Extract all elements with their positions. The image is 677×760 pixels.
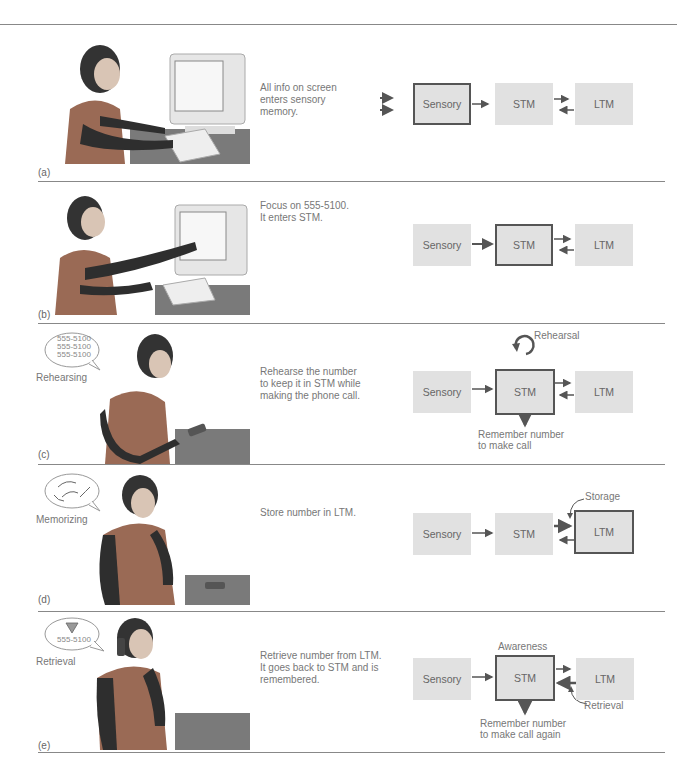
bubble-numbers: 555-5100 555-5100 555-5100 — [52, 335, 96, 359]
output-label: Remember number to make call again — [480, 718, 566, 740]
divider — [38, 752, 665, 753]
panel-description: Store number in LTM. — [260, 507, 400, 519]
desc-line: making the phone call. — [260, 390, 410, 402]
ltm-box: LTM — [575, 371, 633, 413]
side-label: Memorizing — [36, 514, 88, 525]
bubble-line: 555-5100 — [52, 351, 96, 359]
rehearsal-label: Rehearsal — [534, 330, 580, 341]
panel-letter: (e) — [38, 740, 50, 751]
stm-box: STM — [495, 369, 555, 415]
woman-pointing-illustration — [55, 190, 250, 315]
woman-at-computer-illustration — [55, 34, 250, 164]
panel-description: Retrieve number from LTM. It goes back t… — [260, 650, 410, 686]
stm-box: STM — [495, 83, 553, 125]
panel-description: All info on screen enters sensory memory… — [260, 82, 400, 118]
sensory-box: Sensory — [413, 224, 471, 266]
desc-line: Rehearse the number — [260, 366, 410, 378]
label-line: to make call — [478, 440, 564, 451]
desc-line: Focus on 555-5100. — [260, 200, 400, 212]
panel-c: 555-5100 555-5100 555-5100 Rehearsing Re… — [0, 324, 677, 464]
panel-b: Focus on 555-5100. It enters STM. Sensor… — [0, 182, 677, 322]
panel-a: All info on screen enters sensory memory… — [0, 24, 677, 184]
panel-letter: (c) — [38, 449, 50, 460]
stm-box: STM — [495, 513, 553, 555]
panel-description: Rehearse the number to keep it in STM wh… — [260, 366, 410, 402]
desc-line: to keep it in STM while — [260, 378, 410, 390]
ltm-box: LTM — [576, 658, 634, 700]
side-label: Retrieval — [36, 656, 75, 667]
ltm-box: LTM — [575, 224, 633, 266]
output-label: Remember number to make call — [478, 429, 564, 451]
woman-on-phone-illustration — [95, 618, 250, 750]
desc-line: All info on screen — [260, 82, 400, 94]
panel-d: Memorizing Store number in LTM. Storage … — [0, 465, 677, 610]
woman-dialing-illustration — [100, 334, 250, 464]
panel-letter: (d) — [38, 594, 50, 605]
stm-box: STM — [495, 224, 553, 266]
panel-letter: (a) — [38, 167, 50, 178]
bubble-number: 555-5100 — [52, 636, 96, 644]
sensory-box: Sensory — [413, 658, 471, 700]
bubble-line: 555-5100 — [52, 636, 96, 644]
desc-line: It goes back to STM and is — [260, 662, 410, 674]
panel-letter: (b) — [38, 309, 50, 320]
desc-line: Retrieve number from LTM. — [260, 650, 410, 662]
panel-e: 555-5100 Retrieval Retrieve number from … — [0, 612, 677, 760]
desc-line: It enters STM. — [260, 212, 400, 224]
retrieval-label: Retrieval — [584, 700, 623, 711]
sensory-box: Sensory — [413, 371, 471, 413]
label-line: to make call again — [480, 729, 566, 740]
desc-line: remembered. — [260, 674, 410, 686]
sensory-box: Sensory — [413, 83, 471, 125]
panel-description: Focus on 555-5100. It enters STM. — [260, 200, 400, 224]
label-line: Remember number — [480, 718, 566, 729]
ltm-box: LTM — [574, 510, 634, 554]
desc-line: enters sensory — [260, 94, 400, 106]
ltm-box: LTM — [575, 83, 633, 125]
woman-thinking-illustration — [95, 475, 250, 605]
stm-box: STM — [495, 655, 555, 701]
desc-line: Store number in LTM. — [260, 507, 400, 519]
sensory-box: Sensory — [413, 513, 471, 555]
awareness-label: Awareness — [498, 641, 547, 652]
label-line: Remember number — [478, 429, 564, 440]
side-label: Rehearsing — [36, 372, 87, 383]
desc-line: memory. — [260, 106, 400, 118]
